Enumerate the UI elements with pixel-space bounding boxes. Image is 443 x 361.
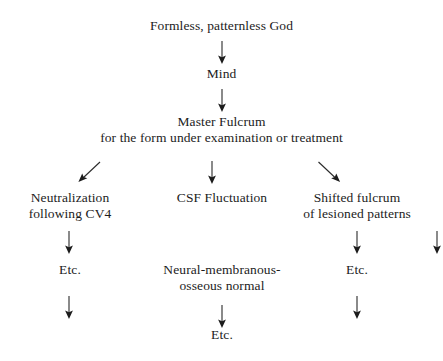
node-text-line: Neutralization xyxy=(0,190,140,206)
down-arrow-icon-master-to-csf-fluctuation xyxy=(205,161,219,185)
down-arrow-icon-right-etc-continuation xyxy=(350,296,364,320)
flowchart-diagram: Formless, patternless God Mind Master Fu… xyxy=(0,0,443,361)
node-text-line: osseous normal xyxy=(142,278,302,294)
node-text-line: Neural-membranous- xyxy=(142,262,302,278)
node-right-etc: Etc. xyxy=(287,262,427,278)
node-master-fulcrum: Master Fulcrum for the form under examin… xyxy=(0,114,443,147)
node-formless-patternless-god: Formless, patternless God xyxy=(0,18,443,34)
down-arrow-icon-neural-membranous-to-etc xyxy=(215,305,229,329)
node-shifted-fulcrum-of-lesioned-patterns: Shifted fulcrum of lesioned patterns xyxy=(287,190,427,223)
down-left-arrow-icon-master-to-neutralization xyxy=(76,161,102,183)
node-text-line: Formless, patternless God xyxy=(0,18,443,34)
node-text-line: Etc. xyxy=(142,327,302,343)
node-text-line: of lesioned patterns xyxy=(287,206,427,222)
node-text-line: CSF Fluctuation xyxy=(147,190,297,206)
node-text-line: Etc. xyxy=(287,262,427,278)
node-text-line: for the form under examination or treatm… xyxy=(0,130,443,146)
down-arrow-icon-left-etc-continuation xyxy=(62,296,76,320)
node-neutralization-following-cv4: Neutralization following CV4 xyxy=(0,190,140,223)
down-arrow-icon-neutralization-to-etc xyxy=(62,231,76,255)
down-arrow-icon-mind-to-master-fulcrum xyxy=(215,89,229,113)
node-csf-fluctuation: CSF Fluctuation xyxy=(147,190,297,206)
node-text-line: following CV4 xyxy=(0,206,140,222)
down-arrow-icon-root-to-mind xyxy=(215,41,229,65)
node-center-etc: Etc. xyxy=(142,327,302,343)
node-left-etc: Etc. xyxy=(0,262,140,278)
node-text-line: Mind xyxy=(0,66,443,82)
node-text-line: Shifted fulcrum xyxy=(287,190,427,206)
down-right-arrow-icon-master-to-shifted-fulcrum xyxy=(317,161,343,183)
node-text-line: Master Fulcrum xyxy=(0,114,443,130)
node-mind: Mind xyxy=(0,66,443,82)
node-neural-membranous-osseous-normal: Neural-membranous- osseous normal xyxy=(142,262,302,295)
node-text-line: Etc. xyxy=(0,262,140,278)
down-arrow-icon-shifted-fulcrum-to-etc xyxy=(350,231,364,255)
